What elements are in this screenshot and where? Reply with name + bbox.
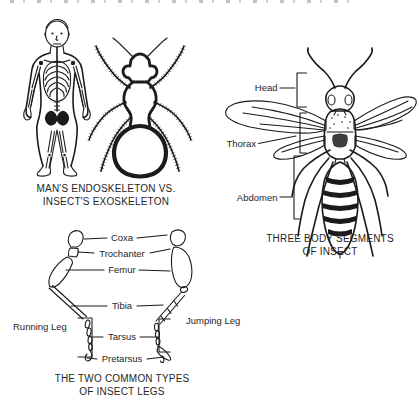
- thorax-label: Thorax: [226, 138, 256, 149]
- coxa-label-group: Coxa: [84, 232, 167, 243]
- leg-types-panel: Coxa Trochanter Femur Tibia Tarsus Preta…: [13, 230, 240, 397]
- panel3-caption-line2: OF INSECT LEGS: [79, 386, 165, 397]
- trochanter-label: Trochanter: [99, 248, 145, 259]
- jumping-leg-label: Jumping Leg: [186, 315, 240, 326]
- panel1-caption-line2: INSECT'S EXOSKELETON: [43, 196, 169, 207]
- panel1-caption-line1: MAN'S ENDOSKELETON VS.: [37, 183, 176, 194]
- panel2-caption-line2: OF INSECT: [302, 246, 357, 257]
- tibia-label: Tibia: [112, 300, 133, 311]
- tarsus-label: Tarsus: [108, 331, 136, 342]
- abdomen-bracket: [294, 156, 301, 219]
- femur-label: Femur: [108, 264, 135, 275]
- textbook-diagram-page: MAN'S ENDOSKELETON VS. INSECT'S EXOSKELE…: [0, 0, 419, 404]
- coxa-label: Coxa: [111, 232, 134, 243]
- tibia-label-group: Tibia: [71, 300, 163, 311]
- body-segments-panel: Head Thorax Abdomen THREE BODY SEGMENTS …: [226, 48, 417, 258]
- panel2-caption-line1: THREE BODY SEGMENTS: [266, 233, 394, 244]
- thorax-pointer-line: [259, 136, 297, 144]
- pretarsus-label-group: Pretarsus: [87, 353, 164, 364]
- man-endoskeleton-figure: [24, 19, 91, 176]
- insect-exoskeleton-figure: [89, 38, 191, 177]
- wasp-figure: [226, 48, 417, 258]
- abdomen-label-group: Abdomen: [237, 156, 301, 219]
- diagram-canvas: MAN'S ENDOSKELETON VS. INSECT'S EXOSKELE…: [0, 0, 419, 404]
- head-bracket: [297, 73, 307, 107]
- running-leg-figure: [49, 231, 92, 361]
- panel3-caption-line1: THE TWO COMMON TYPES: [55, 373, 190, 384]
- trochanter-label-group: Trochanter: [78, 248, 170, 259]
- endoskeleton-exoskeleton-panel: MAN'S ENDOSKELETON VS. INSECT'S EXOSKELE…: [24, 19, 191, 207]
- running-leg-label: Running Leg: [13, 321, 67, 332]
- femur-label-group: Femur: [66, 264, 170, 275]
- head-label-group: Head: [255, 73, 307, 107]
- tarsus-label-group: Tarsus: [93, 331, 158, 342]
- abdomen-label: Abdomen: [237, 192, 278, 203]
- pretarsus-label: Pretarsus: [102, 353, 143, 364]
- head-label: Head: [255, 82, 278, 93]
- jumping-leg-figure: [155, 230, 192, 363]
